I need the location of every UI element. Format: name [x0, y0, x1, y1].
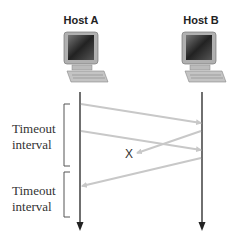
timeout-label-1-line1: Timeout [12, 121, 56, 136]
timeout-label-2-line1: Timeout [12, 183, 56, 198]
timeout-label-2-line2: interval [12, 199, 52, 214]
timeout-bracket-2 [64, 172, 70, 217]
timeout-label-1-line2: interval [12, 137, 52, 152]
computer-icon-host-a [64, 32, 108, 82]
host-a-timeline [77, 92, 84, 231]
host-a-label: Host A [63, 14, 98, 26]
loss-marker: X [125, 147, 133, 161]
host-b-label: Host B [183, 14, 219, 26]
host-b-timeline [199, 92, 206, 231]
timeout-bracket-1 [64, 104, 70, 166]
timing-diagram: Host A Host B X Timeout interval Timeout [0, 0, 243, 239]
ack-arrow-returned [82, 158, 201, 186]
packet-arrow-2 [81, 131, 201, 150]
computer-icon-host-b [182, 32, 226, 82]
packet-arrow-1 [81, 104, 201, 123]
